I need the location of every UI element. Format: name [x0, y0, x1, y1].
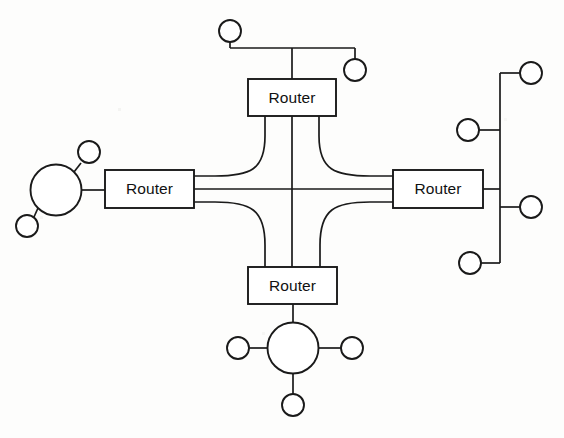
host-top-bus-left[interactable] [219, 20, 241, 42]
host-top-bus-right[interactable] [344, 59, 366, 81]
host-right-bus-mid-right[interactable] [520, 196, 542, 218]
router-top[interactable]: Router [248, 79, 336, 116]
router-bottom[interactable]: Router [248, 267, 337, 304]
host-left-cloud-down[interactable] [16, 215, 38, 237]
host-right-bus-top[interactable] [520, 62, 542, 84]
router-left-label: Router [126, 180, 173, 197]
right-bus-group [479, 73, 520, 263]
host-bottom-cloud-down[interactable] [282, 394, 304, 416]
host-right-bus-mid-left[interactable] [457, 119, 479, 141]
host-left-cloud-up[interactable] [78, 141, 100, 163]
link-right-to-bottom-router [320, 202, 393, 267]
network-diagram-canvas: Router Router Router Router [0, 0, 564, 438]
router-right-label: Router [414, 180, 461, 197]
link-left-cloud-host-up [74, 163, 81, 172]
link-top-to-left-router [194, 116, 265, 176]
host-bottom-cloud-right[interactable] [341, 337, 363, 359]
host-right-bus-bottom[interactable] [459, 252, 481, 274]
router-top-label: Router [268, 89, 315, 106]
router-left[interactable]: Router [105, 170, 194, 208]
cloud-bottom[interactable] [268, 323, 319, 374]
router-right[interactable]: Router [393, 170, 483, 208]
router-bottom-label: Router [269, 277, 316, 294]
cloud-left[interactable] [31, 165, 82, 216]
link-left-cloud-host-down [34, 208, 38, 217]
network-topology-svg: Router Router Router Router [0, 0, 564, 438]
link-left-to-bottom-router [194, 202, 265, 267]
mesh-links-group [194, 116, 393, 267]
top-bus-group [230, 42, 355, 79]
host-bottom-cloud-left[interactable] [227, 337, 249, 359]
link-top-to-right-router [319, 116, 393, 176]
